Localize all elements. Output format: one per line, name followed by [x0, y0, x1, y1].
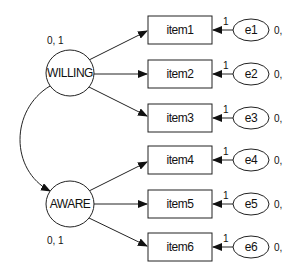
item-label: item3	[167, 111, 195, 125]
latent-label: WILLING	[47, 66, 93, 80]
error-param: 0,	[274, 242, 282, 253]
item-label: item4	[167, 153, 195, 167]
error-label: e4	[245, 153, 258, 167]
item-label: item5	[167, 197, 195, 211]
item-row-3: item3 1 e3 0,	[148, 104, 282, 132]
error-label: e3	[245, 111, 258, 125]
item-label: item6	[167, 240, 195, 254]
item-row-1: item1 1 e1 0,	[148, 16, 282, 44]
covariance-arrow	[20, 86, 50, 191]
sem-diagram: WILLING 0, 1 AWARE 0, 1 item1 1 e1 0, it…	[0, 0, 299, 276]
latent-label: AWARE	[50, 197, 91, 211]
error-loading: 1	[223, 60, 229, 71]
latent-aware[interactable]: AWARE 0, 1	[46, 181, 94, 246]
error-label: e6	[245, 240, 258, 254]
latent-willing[interactable]: WILLING 0, 1	[46, 35, 94, 96]
error-label: e5	[245, 197, 258, 211]
error-label: e2	[245, 67, 258, 81]
latent-param: 0, 1	[47, 235, 64, 246]
error-param: 0,	[274, 199, 282, 210]
error-param: 0,	[274, 113, 282, 124]
latent-param: 0, 1	[47, 35, 64, 46]
error-loading: 1	[223, 104, 229, 115]
error-loading: 1	[223, 146, 229, 157]
error-label: e1	[245, 23, 258, 37]
error-loading: 1	[223, 16, 229, 27]
factor-loading-paths	[89, 31, 147, 246]
item-row-4: item4 1 e4 0,	[148, 146, 282, 174]
item-row-6: item6 1 e6 0,	[148, 233, 282, 261]
item-row-2: item2 1 e2 0,	[148, 60, 282, 88]
error-param: 0,	[274, 155, 282, 166]
item-label: item1	[167, 23, 195, 37]
error-param: 0,	[274, 25, 282, 36]
error-param: 0,	[274, 69, 282, 80]
error-loading: 1	[223, 190, 229, 201]
item-row-5: item5 1 e5 0,	[148, 190, 282, 218]
item-label: item2	[167, 67, 195, 81]
error-loading: 1	[223, 233, 229, 244]
